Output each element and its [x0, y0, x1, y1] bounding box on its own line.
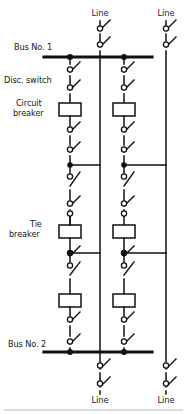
switch-terminal — [121, 127, 126, 132]
label-line-bottom-center: Line — [91, 395, 108, 405]
diagram-canvas: Line Line Bus No. 1 Disc. switch Circuit… — [0, 0, 187, 414]
switch-terminal — [121, 339, 126, 344]
bus-connection-dot — [121, 54, 127, 60]
tap-junction-dot — [67, 162, 73, 168]
switch-terminal — [67, 127, 72, 132]
tap-junction-dot — [121, 250, 127, 256]
single-line-diagram: Line Line Bus No. 1 Disc. switch Circuit… — [0, 0, 187, 414]
switch-terminal — [121, 147, 126, 152]
switch-terminal — [67, 339, 72, 344]
label-tie-breaker-line2: breaker — [9, 229, 40, 239]
label-line-top-right: Line — [157, 8, 174, 18]
switch-terminal — [67, 263, 72, 268]
label-bus-no-1: Bus No. 1 — [14, 42, 52, 52]
circuit-breaker-right-top — [113, 103, 135, 116]
bus-connection-dot — [121, 349, 127, 355]
tap-junction-dot — [121, 162, 127, 168]
switch-terminal — [121, 85, 126, 90]
tap-junction-dot — [67, 250, 73, 256]
switch-terminal — [163, 363, 168, 368]
tie-breaker-right — [113, 225, 135, 238]
label-line-bottom-right: Line — [157, 395, 174, 405]
label-circuit-breaker-line1: Circuit — [16, 98, 43, 108]
switch-terminal — [67, 85, 72, 90]
switch-terminal — [67, 67, 72, 72]
switch-terminal — [163, 42, 168, 47]
circuit-breaker-left-top — [59, 103, 81, 116]
label-disc-switch: Disc. switch — [4, 75, 52, 85]
label-circuit-breaker-line2: breaker — [13, 108, 44, 118]
tie-breaker-left — [59, 225, 81, 238]
switch-terminal — [67, 147, 72, 152]
switch-terminal — [97, 381, 102, 386]
bus-connection-dot — [67, 349, 73, 355]
switch-terminal — [121, 174, 126, 179]
label-tie-breaker-line1: Tie — [29, 219, 42, 229]
circuit-breaker-right-bottom — [113, 294, 135, 307]
switch-terminal — [97, 42, 102, 47]
switch-terminal — [121, 67, 126, 72]
switch-terminal — [121, 201, 126, 206]
switch-terminal — [121, 211, 126, 216]
switch-terminal — [67, 201, 72, 206]
switch-terminal — [67, 174, 72, 179]
switch-terminal — [67, 211, 72, 216]
switch-terminal — [121, 317, 126, 322]
switch-terminal — [97, 363, 102, 368]
bus-connection-dot — [67, 54, 73, 60]
switch-terminal — [163, 26, 168, 31]
circuit-breaker-left-bottom — [59, 294, 81, 307]
label-line-top-center: Line — [91, 8, 108, 18]
label-bus-no-2: Bus No. 2 — [8, 339, 46, 349]
switch-terminal — [121, 263, 126, 268]
switch-terminal — [67, 317, 72, 322]
switch-terminal — [163, 381, 168, 386]
switch-terminal — [97, 26, 102, 31]
